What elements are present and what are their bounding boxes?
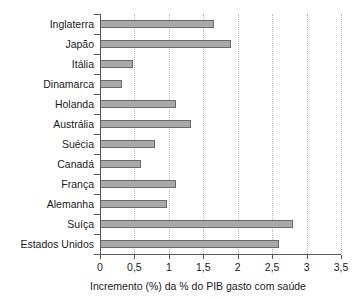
x-axis-tick bbox=[307, 255, 308, 259]
x-axis-tick bbox=[169, 255, 170, 259]
x-axis-line bbox=[100, 254, 341, 255]
x-axis-tick bbox=[134, 255, 135, 259]
category-label: Canadá bbox=[2, 159, 94, 169]
bar bbox=[100, 200, 167, 208]
category-label: Itália bbox=[2, 59, 94, 69]
x-axis-tick bbox=[100, 255, 101, 259]
category-label: Dinamarca bbox=[2, 79, 94, 89]
category-label: Austrália bbox=[2, 119, 94, 129]
y-axis-tick bbox=[94, 154, 100, 155]
x-axis-tick-label: 3,5 bbox=[321, 261, 356, 273]
y-axis-tick bbox=[94, 74, 100, 75]
bar-row bbox=[100, 14, 341, 34]
bar-row bbox=[100, 214, 341, 234]
x-axis-tick bbox=[272, 255, 273, 259]
bar bbox=[100, 40, 231, 48]
bar bbox=[100, 140, 155, 148]
y-axis-tick bbox=[94, 194, 100, 195]
category-label: Alemanha bbox=[2, 199, 94, 209]
category-label: Japão bbox=[2, 39, 94, 49]
x-axis-title: Incremento (%) da % do PIB gasto com saú… bbox=[0, 280, 356, 293]
x-axis-tick bbox=[341, 255, 342, 259]
bar-row bbox=[100, 134, 341, 154]
bar-row bbox=[100, 54, 341, 74]
y-axis-tick bbox=[94, 54, 100, 55]
x-axis-tick bbox=[203, 255, 204, 259]
x-axis-tick bbox=[238, 255, 239, 259]
y-axis-tick bbox=[94, 34, 100, 35]
bar-row bbox=[100, 234, 341, 254]
category-label: Holanda bbox=[2, 99, 94, 109]
bar-row bbox=[100, 194, 341, 214]
bar-row bbox=[100, 94, 341, 114]
category-label: Inglaterra bbox=[2, 19, 94, 29]
bar bbox=[100, 60, 133, 68]
bar bbox=[100, 220, 293, 228]
bar-row bbox=[100, 34, 341, 54]
bar bbox=[100, 20, 214, 28]
y-axis-tick bbox=[94, 234, 100, 235]
category-label: Suíça bbox=[2, 219, 94, 229]
category-label: França bbox=[2, 179, 94, 189]
bar-row bbox=[100, 74, 341, 94]
horizontal-bar-chart: InglaterraJapãoItáliaDinamarcaHolandaAus… bbox=[0, 0, 356, 300]
plot-area bbox=[100, 14, 341, 254]
category-label: Suécia bbox=[2, 139, 94, 149]
bar bbox=[100, 100, 176, 108]
bar bbox=[100, 240, 279, 248]
bar-row bbox=[100, 114, 341, 134]
y-axis-tick bbox=[94, 134, 100, 135]
bar-row bbox=[100, 174, 341, 194]
gridline-3-5 bbox=[341, 14, 342, 254]
bar bbox=[100, 180, 176, 188]
bar bbox=[100, 80, 122, 88]
category-label: Estados Unidos bbox=[2, 239, 94, 249]
bar-row bbox=[100, 154, 341, 174]
bar bbox=[100, 160, 141, 168]
y-axis-tick bbox=[94, 94, 100, 95]
y-axis-tick bbox=[94, 14, 100, 15]
y-axis-line bbox=[100, 14, 101, 255]
y-axis-tick bbox=[94, 174, 100, 175]
bar bbox=[100, 120, 191, 128]
y-axis-tick bbox=[94, 114, 100, 115]
y-axis-tick bbox=[94, 214, 100, 215]
